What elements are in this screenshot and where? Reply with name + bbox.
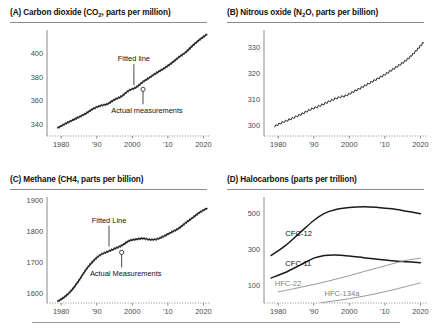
y-tick-label: 340 bbox=[31, 120, 43, 129]
panel-d-plot: 1003005001980'902000'102020CFC-12CFC-11H… bbox=[217, 191, 434, 331]
panel-c-title-rule bbox=[10, 189, 207, 190]
x-tick-label: 1980 bbox=[270, 307, 286, 316]
x-tick-label: 2000 bbox=[341, 307, 357, 316]
figure-bottom-rule bbox=[32, 322, 400, 323]
panel-c-title: (C) Methane (CH4, parts per billion) bbox=[10, 175, 143, 184]
y-tick-label: 330 bbox=[248, 43, 260, 52]
panel-b-svg: 3003103203301980'902000'102020 bbox=[217, 24, 434, 164]
x-tick-label: '10 bbox=[163, 307, 173, 316]
n2o-series-path bbox=[275, 43, 424, 128]
fitted-line-path bbox=[58, 208, 207, 301]
x-tick-label: '10 bbox=[163, 140, 173, 149]
x-tick-label: 2020 bbox=[195, 307, 211, 316]
panel-c-plot: 16001700180019001980'902000'102020Fitted… bbox=[0, 191, 217, 331]
actual-measurement-marker bbox=[141, 87, 145, 91]
x-tick-label: '10 bbox=[380, 307, 390, 316]
panel-a-title: (A) Carbon dioxide (CO2, parts per milli… bbox=[10, 8, 171, 18]
panel-b-title-rule bbox=[227, 22, 424, 23]
y-tick-label: 1600 bbox=[27, 289, 43, 298]
x-tick-label: '10 bbox=[380, 140, 390, 149]
panel-b-title: (B) Nitrous oxide (N2O, parts per billio… bbox=[227, 8, 378, 18]
y-tick-label: 380 bbox=[31, 73, 43, 82]
y-tick-label: 500 bbox=[248, 209, 260, 218]
y-tick-label: 1800 bbox=[27, 227, 43, 236]
y-tick-label: 1900 bbox=[27, 196, 43, 205]
panel-a-plot: 3403603804001980'902000'102020Fitted lin… bbox=[0, 24, 217, 164]
panel-halocarbons: (D) Halocarbons (parts per trillion) 100… bbox=[217, 167, 434, 334]
y-tick-label: 100 bbox=[248, 281, 260, 290]
y-tick-label: 1700 bbox=[27, 258, 43, 267]
panel-b-plot: 3003103203301980'902000'102020 bbox=[217, 24, 434, 164]
actual-measurement-marker bbox=[120, 250, 124, 254]
annotation-actual-measurements: Actual measurements bbox=[111, 106, 183, 115]
panel-methane: (C) Methane (CH4, parts per billion) 160… bbox=[0, 167, 217, 334]
panel-nitrous-oxide: (B) Nitrous oxide (N2O, parts per billio… bbox=[217, 0, 434, 167]
panel-d-title-rule bbox=[227, 189, 424, 190]
x-tick-label: 2020 bbox=[195, 140, 211, 149]
x-tick-label: 2020 bbox=[412, 307, 428, 316]
annotation-fitted-line: Fitted Line bbox=[92, 216, 127, 225]
series-label-cfc-11: CFC-11 bbox=[285, 259, 311, 268]
y-tick-label: 300 bbox=[248, 121, 260, 130]
panel-c-svg: 16001700180019001980'902000'102020Fitted… bbox=[0, 191, 217, 331]
x-tick-label: 2020 bbox=[412, 140, 428, 149]
greenhouse-gas-figure: (A) Carbon dioxide (CO2, parts per milli… bbox=[0, 0, 434, 334]
series-label-cfc-12: CFC-12 bbox=[285, 229, 312, 238]
x-tick-label: '90 bbox=[309, 307, 319, 316]
x-tick-label: 1980 bbox=[53, 140, 69, 149]
x-tick-label: 2000 bbox=[124, 140, 140, 149]
panel-d-title: (D) Halocarbons (parts per trillion) bbox=[227, 175, 357, 184]
panel-d-svg: 1003005001980'902000'102020CFC-12CFC-11H… bbox=[217, 191, 434, 331]
series-label-hfc-134a: HFC-134a bbox=[324, 289, 360, 298]
y-tick-label: 300 bbox=[248, 245, 260, 254]
y-tick-label: 360 bbox=[31, 96, 43, 105]
y-tick-label: 400 bbox=[31, 49, 43, 58]
x-tick-label: 2000 bbox=[341, 140, 357, 149]
panel-a-svg: 3403603804001980'902000'102020Fitted lin… bbox=[0, 24, 217, 164]
x-tick-label: '90 bbox=[92, 140, 102, 149]
series-label-hfc-22: HFC-22 bbox=[275, 279, 302, 288]
x-tick-label: 1980 bbox=[270, 140, 286, 149]
x-tick-label: 2000 bbox=[124, 307, 140, 316]
panel-carbon-dioxide: (A) Carbon dioxide (CO2, parts per milli… bbox=[0, 0, 217, 167]
annotation-actual-measurements: Actual Measurements bbox=[90, 269, 162, 278]
x-tick-label: 1980 bbox=[53, 307, 69, 316]
x-tick-label: '90 bbox=[92, 307, 102, 316]
panel-a-title-rule bbox=[10, 22, 207, 23]
x-tick-label: '90 bbox=[309, 140, 319, 149]
y-tick-label: 320 bbox=[248, 69, 260, 78]
y-tick-label: 310 bbox=[248, 95, 260, 104]
annotation-fitted-line: Fitted line bbox=[118, 54, 150, 63]
